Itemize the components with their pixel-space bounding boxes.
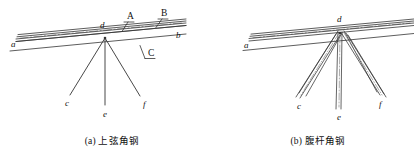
- panel-b-node-label-d: d: [337, 14, 342, 24]
- panel-a-weld-label-C: C: [148, 48, 154, 58]
- panel-a-weld-label-B: B: [161, 8, 167, 18]
- panel-b-top-chord: [249, 19, 414, 41]
- truss-joint-figure: abdcefABCadcef (a) 上弦角钢 (b) 腹杆角钢: [0, 0, 414, 154]
- panel-a-node-label-a: a: [11, 39, 16, 49]
- panel-b-node-label-a: a: [244, 40, 249, 50]
- panel-a-joint-node: [104, 37, 107, 40]
- panel-a-weld-label-A: A: [127, 11, 134, 21]
- panel-b-node-label-f: f: [379, 99, 383, 109]
- panel-b-drawing: [243, 19, 414, 109]
- panel-a-node-label-d: d: [100, 20, 105, 30]
- truss-joint-drawing: abdcefABCadcef: [0, 0, 414, 154]
- panel-a-node-label-c: c: [65, 98, 69, 108]
- panel-a-node-label-f: f: [143, 99, 147, 109]
- panel-a-drawing: [10, 19, 186, 105]
- panel-a-node-label-b: b: [176, 30, 181, 40]
- panel-b-web-members: [296, 31, 386, 109]
- panel-a-caption: (a) 上弦角钢: [62, 133, 162, 147]
- panel-b-node-label-c: c: [297, 101, 301, 111]
- panel-b-joint-node: [339, 32, 342, 35]
- label-layer: abdcefABCadcef: [11, 8, 383, 122]
- panel-a-web-members: [70, 38, 140, 105]
- panel-a-node-label-e: e: [103, 109, 107, 119]
- panel-b-caption: (b) 腹杆角钢: [268, 133, 368, 147]
- panel-b-node-label-e: e: [337, 112, 341, 122]
